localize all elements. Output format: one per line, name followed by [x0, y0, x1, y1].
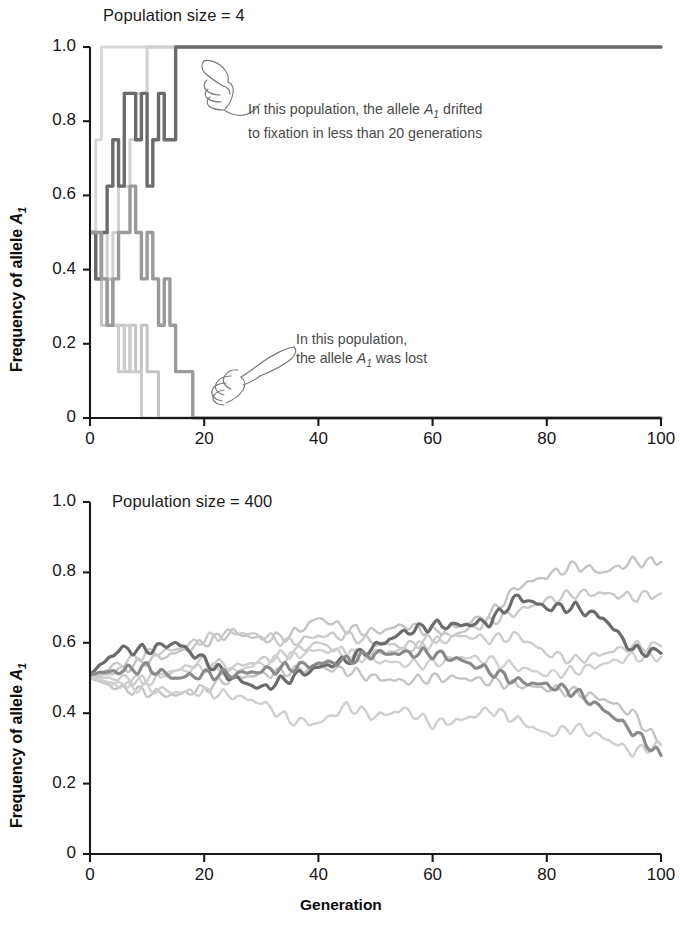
x-tick-label: 100: [631, 429, 680, 449]
fixation-annotation-line-2: to fixation in less than 20 generations: [248, 124, 482, 143]
y-tick-label: 0.6: [28, 184, 76, 204]
y-tick-label: 0.2: [28, 333, 76, 353]
top-panel-plot: [0, 0, 675, 460]
y-tick-label: 0.4: [28, 259, 76, 279]
x-tick-label: 80: [517, 865, 577, 885]
trace-population-light-lowest: [90, 678, 661, 757]
y-tick-label: 0.6: [28, 632, 76, 652]
top-panel-title: Population size = 4: [103, 6, 245, 25]
loss-annotation-line2-b: was lost: [372, 350, 427, 366]
top-y-axis-allele: A1: [8, 207, 25, 225]
x-tick-label: 20: [174, 865, 234, 885]
x-axis-title: Generation: [300, 896, 382, 914]
bottom-y-axis-title-prefix: Frequency of allele: [8, 681, 25, 828]
top-y-axis-title-prefix: Frequency of allele: [8, 225, 25, 372]
fixation-annotation-line1-b: drifted: [439, 101, 482, 117]
pointing-hand-icon: [198, 345, 302, 411]
top-y-axis-title: Frequency of allele A1: [8, 207, 28, 372]
axes: [83, 502, 661, 862]
y-tick-label: 0.4: [28, 702, 76, 722]
loss-annotation-line-2: the allele A1 was lost: [296, 349, 427, 373]
x-tick-label: 40: [288, 429, 348, 449]
bottom-y-axis-title: Frequency of allele A1: [8, 663, 28, 828]
x-tick-label: 40: [288, 865, 348, 885]
x-tick-label: 20: [174, 429, 234, 449]
top-y-axis-allele-letter: A: [8, 213, 25, 224]
fixation-annotation-allele: A1: [424, 101, 439, 117]
loss-annotation-allele-letter: A: [357, 350, 366, 366]
loss-annotation-line2-a: the allele: [296, 350, 357, 366]
trace-population-fixed-dark: [90, 47, 661, 279]
x-tick-label: 0: [60, 429, 120, 449]
fixation-annotation-line1-a: In this population, the allele: [248, 101, 424, 117]
fixation-annotation: In this population, the allele A1 drifte…: [248, 100, 482, 143]
panel-population-size-4: Population size = 4 Frequency of allele …: [0, 0, 675, 460]
panel-population-size-400: [0, 460, 675, 927]
x-tick-label: 60: [403, 429, 463, 449]
y-tick-label: 1.0: [28, 36, 76, 56]
y-tick-label: 0.2: [28, 773, 76, 793]
y-tick-label: 0.8: [28, 110, 76, 130]
fixation-annotation-allele-letter: A: [424, 101, 433, 117]
trace-population-dark-decline: [90, 648, 661, 755]
bottom-y-axis-allele: A1: [8, 663, 25, 681]
top-y-axis-allele-subscript: 1: [16, 207, 28, 213]
x-tick-label: 80: [517, 429, 577, 449]
y-tick-label: 0: [28, 407, 76, 427]
y-tick-label: 0: [28, 843, 76, 863]
trace-population-lost-mid: [90, 186, 661, 418]
bottom-y-axis-allele-subscript: 1: [16, 663, 28, 669]
x-tick-label: 0: [60, 865, 120, 885]
y-tick-label: 1.0: [28, 491, 76, 511]
loss-annotation: In this population, the allele A1 was lo…: [296, 330, 427, 373]
loss-annotation-allele: A1: [357, 350, 372, 366]
bottom-panel-title: Population size = 400: [112, 492, 272, 511]
fixation-annotation-line-1: In this population, the allele A1 drifte…: [248, 100, 482, 124]
x-tick-label: 100: [631, 865, 680, 885]
y-tick-label: 0.8: [28, 561, 76, 581]
bottom-y-axis-allele-letter: A: [8, 669, 25, 680]
x-tick-label: 60: [403, 865, 463, 885]
loss-annotation-line-1: In this population,: [296, 330, 427, 349]
bottom-panel-plot: [0, 460, 675, 927]
